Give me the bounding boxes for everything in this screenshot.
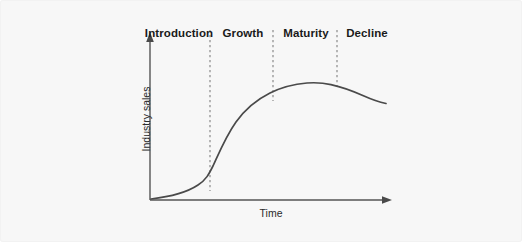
product-life-cycle-chart: Introduction Growth Maturity Decline Ind…: [0, 0, 522, 242]
x-axis-label: Time: [260, 207, 283, 219]
stage-dividers-group: [210, 30, 337, 191]
stage-label-introduction: Introduction: [145, 27, 213, 39]
y-axis-label: Industry sales: [140, 87, 152, 152]
axes-group: [146, 32, 392, 204]
x-axis-arrowhead: [382, 196, 392, 204]
stage-label-decline: Decline: [346, 27, 388, 39]
stage-label-maturity: Maturity: [283, 27, 329, 39]
sales-curve-group: [151, 83, 386, 199]
stage-label-growth: Growth: [223, 27, 264, 39]
industry-sales-curve: [151, 83, 386, 199]
